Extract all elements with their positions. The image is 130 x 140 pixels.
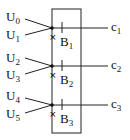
junction-dot [50,26,54,30]
cross-mark: × [49,70,57,80]
block-label-b1: B1 [60,35,73,53]
input-label-u1: U1 [6,28,20,46]
junction-dot [50,64,54,68]
output-label-c1: c1 [111,20,121,38]
block-label-b3: B3 [60,112,73,130]
junction-dot [50,103,54,107]
output-label-c3: c3 [111,97,121,115]
cross-mark: × [49,32,57,42]
circuit-diagram: × × × U0 U1 U2 U3 U4 U5 B1 B2 B3 c1 c2 c… [0,0,130,140]
block-label-b2: B2 [60,73,73,91]
output-label-c2: c2 [111,58,121,76]
input-label-u3: U3 [6,68,20,86]
input-label-u4: U4 [6,89,20,107]
cross-mark: × [49,109,57,119]
input-label-u0: U0 [6,10,20,28]
input-label-u5: U5 [6,107,20,125]
